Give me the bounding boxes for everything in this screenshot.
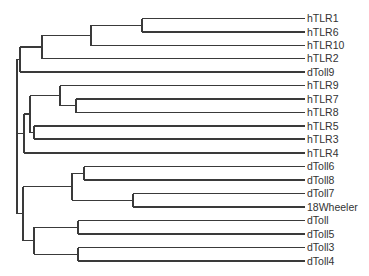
leaf-label: hTLR1 (307, 12, 339, 24)
leaf-label: hTLR6 (307, 26, 339, 38)
leaf-label: dToll5 (307, 228, 335, 240)
leaf-label: hTLR3 (307, 133, 339, 145)
leaf-label: dToll (307, 214, 329, 226)
leaf-label: dToll8 (307, 174, 335, 186)
leaf-label: hTLR5 (307, 120, 339, 132)
phylogenetic-tree: hTLR1hTLR6hTLR10hTLR2dToll9hTLR9hTLR7hTL… (0, 0, 369, 276)
leaf-label: dToll3 (307, 241, 335, 253)
leaf-label: 18Wheeler (307, 201, 358, 213)
tree-branches (17, 19, 305, 262)
leaf-label: hTLR8 (307, 106, 339, 118)
leaf-label: dToll4 (307, 255, 335, 267)
leaf-label: dToll9 (307, 66, 335, 78)
leaf-label: hTLR7 (307, 93, 339, 105)
leaf-labels: hTLR1hTLR6hTLR10hTLR2dToll9hTLR9hTLR7hTL… (307, 12, 358, 266)
leaf-label: hTLR4 (307, 147, 339, 159)
leaf-label: dToll7 (307, 187, 335, 199)
leaf-label: hTLR9 (307, 79, 339, 91)
leaf-label: dToll6 (307, 160, 335, 172)
leaf-label: hTLR10 (307, 39, 345, 51)
leaf-label: hTLR2 (307, 52, 339, 64)
